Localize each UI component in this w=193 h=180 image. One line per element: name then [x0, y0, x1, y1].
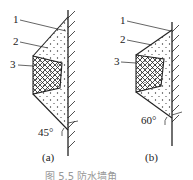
panel-a-mesh-block	[33, 56, 62, 94]
figure-caption: 图 5.5 防水墙角	[45, 170, 117, 180]
diagram-canvas: 1 2 3 45° (a) 1 2 3	[0, 0, 193, 180]
panel-b-leader-2	[127, 40, 152, 45]
panel-b-leader-3	[121, 62, 136, 63]
panel-b-angle-arrow-icon	[172, 112, 182, 115]
panel-b-angle-arc-icon	[165, 117, 167, 125]
panel-a: 1 2 3 45° (a)	[10, 10, 78, 164]
panel-a-angle-arc-icon	[62, 128, 64, 136]
panel-a-label: (a)	[42, 151, 55, 164]
panel-a-callout-3: 3	[10, 58, 16, 70]
panel-a-leader-1	[20, 20, 66, 31]
panel-b: 1 2 3 60° (b)	[114, 14, 182, 164]
panel-b-callout-3: 3	[114, 55, 120, 67]
panel-a-angle-label: 45°	[38, 126, 53, 138]
panel-b-wall-hatching	[172, 25, 179, 122]
panel-a-callout-2: 2	[13, 35, 19, 47]
panel-b-mesh-block	[136, 55, 164, 92]
panel-b-label: (b)	[145, 151, 158, 164]
panel-b-callout-1: 1	[120, 14, 126, 26]
panel-b-angle-label: 60°	[141, 114, 156, 126]
panel-a-wall-hatching	[68, 11, 75, 148]
panel-a-callout-1: 1	[13, 13, 19, 25]
panel-a-leader-3	[18, 65, 33, 66]
panel-b-leader-1	[127, 21, 171, 31]
panel-b-callout-2: 2	[120, 33, 126, 45]
